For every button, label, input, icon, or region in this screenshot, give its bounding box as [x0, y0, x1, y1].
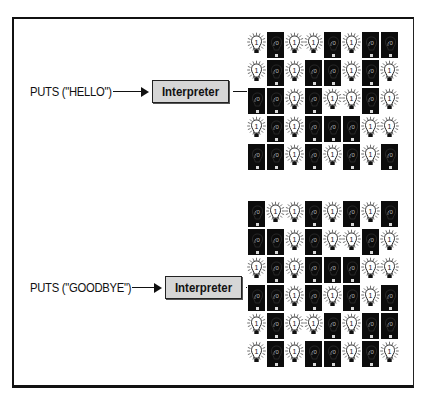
lightbulb-on-icon: 1 — [285, 312, 304, 340]
lightbulb-off-icon: 0 — [380, 284, 399, 312]
lightbulb-on-icon: 1 — [285, 200, 304, 228]
goodbye-flow: PUTS ("GOODBYE") Interpreter — [30, 276, 274, 299]
lightbulb-off-icon: 0 — [361, 228, 380, 256]
lightbulb-on-icon: 1 — [304, 312, 323, 340]
lightbulb-off-icon: 0 — [380, 31, 399, 59]
lightbulb-off-icon: 0 — [342, 115, 361, 143]
svg-text:1: 1 — [350, 39, 354, 46]
goodbye-bulb-grid: 0110101000101101101000110010101010110100… — [247, 200, 399, 368]
lightbulb-off-icon: 0 — [266, 87, 285, 115]
svg-text:1: 1 — [369, 208, 373, 215]
svg-text:1: 1 — [255, 264, 259, 271]
lightbulb-off-icon: 0 — [380, 312, 399, 340]
lightbulb-on-icon: 1 — [323, 228, 342, 256]
lightbulb-off-icon: 0 — [323, 59, 342, 87]
lightbulb-off-icon: 0 — [361, 312, 380, 340]
lightbulb-on-icon: 1 — [380, 59, 399, 87]
lightbulb-off-icon: 0 — [247, 228, 266, 256]
lightbulb-on-icon: 1 — [304, 31, 323, 59]
svg-text:1: 1 — [331, 236, 335, 243]
lightbulb-off-icon: 0 — [266, 59, 285, 87]
lightbulb-on-icon: 1 — [285, 59, 304, 87]
lightbulb-off-icon: 0 — [266, 31, 285, 59]
lightbulb-on-icon: 1 — [285, 87, 304, 115]
lightbulb-off-icon: 0 — [342, 256, 361, 284]
svg-text:1: 1 — [312, 320, 316, 327]
lightbulb-off-icon: 0 — [247, 284, 266, 312]
lightbulb-on-icon: 1 — [361, 256, 380, 284]
lightbulb-off-icon: 0 — [342, 200, 361, 228]
svg-text:1: 1 — [350, 320, 354, 327]
lightbulb-on-icon: 1 — [323, 200, 342, 228]
lightbulb-off-icon: 0 — [304, 200, 323, 228]
svg-text:1: 1 — [255, 320, 259, 327]
lightbulb-on-icon: 1 — [361, 200, 380, 228]
svg-text:1: 1 — [350, 67, 354, 74]
lightbulb-off-icon: 0 — [380, 143, 399, 171]
lightbulb-on-icon: 1 — [247, 312, 266, 340]
svg-text:1: 1 — [331, 208, 335, 215]
lightbulb-off-icon: 0 — [342, 284, 361, 312]
lightbulb-off-icon: 0 — [266, 143, 285, 171]
lightbulb-off-icon: 0 — [304, 115, 323, 143]
lightbulb-on-icon: 1 — [342, 228, 361, 256]
interpreter-box: Interpreter — [152, 80, 229, 103]
svg-text:1: 1 — [293, 151, 297, 158]
lightbulb-off-icon: 0 — [304, 340, 323, 368]
svg-text:1: 1 — [388, 67, 392, 74]
lightbulb-on-icon: 1 — [285, 31, 304, 59]
lightbulb-off-icon: 0 — [361, 340, 380, 368]
lightbulb-on-icon: 1 — [380, 340, 399, 368]
lightbulb-on-icon: 1 — [361, 284, 380, 312]
svg-text:1: 1 — [255, 39, 259, 46]
svg-text:1: 1 — [293, 264, 297, 271]
lightbulb-on-icon: 1 — [285, 284, 304, 312]
lightbulb-off-icon: 0 — [247, 87, 266, 115]
lightbulb-on-icon: 1 — [342, 312, 361, 340]
lightbulb-off-icon: 0 — [304, 228, 323, 256]
svg-text:1: 1 — [312, 39, 316, 46]
lightbulb-on-icon: 1 — [247, 256, 266, 284]
lightbulb-off-icon: 0 — [304, 87, 323, 115]
lightbulb-off-icon: 0 — [304, 284, 323, 312]
lightbulb-on-icon: 1 — [323, 143, 342, 171]
svg-text:1: 1 — [293, 123, 297, 130]
lightbulb-on-icon: 1 — [380, 87, 399, 115]
lightbulb-off-icon: 0 — [361, 31, 380, 59]
lightbulb-off-icon: 0 — [323, 31, 342, 59]
lightbulb-on-icon: 1 — [342, 340, 361, 368]
lightbulb-on-icon: 1 — [285, 115, 304, 143]
lightbulb-on-icon: 1 — [247, 340, 266, 368]
svg-text:1: 1 — [388, 95, 392, 102]
svg-text:1: 1 — [293, 95, 297, 102]
lightbulb-off-icon: 0 — [266, 256, 285, 284]
lightbulb-off-icon: 0 — [266, 312, 285, 340]
svg-text:1: 1 — [293, 67, 297, 74]
lightbulb-off-icon: 0 — [247, 200, 266, 228]
goodbye-code-label: PUTS ("GOODBYE") — [30, 281, 131, 295]
svg-text:1: 1 — [369, 151, 373, 158]
lightbulb-off-icon: 0 — [266, 228, 285, 256]
interpreter-box: Interpreter — [165, 276, 242, 299]
svg-text:1: 1 — [255, 67, 259, 74]
lightbulb-on-icon: 1 — [247, 59, 266, 87]
arrow-right-icon — [113, 87, 149, 97]
svg-text:1: 1 — [293, 348, 297, 355]
svg-text:1: 1 — [350, 95, 354, 102]
svg-text:1: 1 — [255, 348, 259, 355]
svg-text:1: 1 — [369, 292, 373, 299]
svg-text:1: 1 — [369, 264, 373, 271]
svg-text:1: 1 — [388, 123, 392, 130]
lightbulb-off-icon: 0 — [361, 59, 380, 87]
lightbulb-on-icon: 1 — [323, 87, 342, 115]
lightbulb-on-icon: 1 — [361, 143, 380, 171]
hello-code-label: PUTS ("HELLO") — [30, 85, 112, 99]
lightbulb-on-icon: 1 — [380, 115, 399, 143]
svg-text:1: 1 — [350, 236, 354, 243]
lightbulb-off-icon: 0 — [380, 200, 399, 228]
lightbulb-on-icon: 1 — [380, 228, 399, 256]
lightbulb-off-icon: 0 — [361, 87, 380, 115]
svg-text:1: 1 — [388, 264, 392, 271]
svg-text:1: 1 — [388, 348, 392, 355]
lightbulb-off-icon: 0 — [304, 143, 323, 171]
